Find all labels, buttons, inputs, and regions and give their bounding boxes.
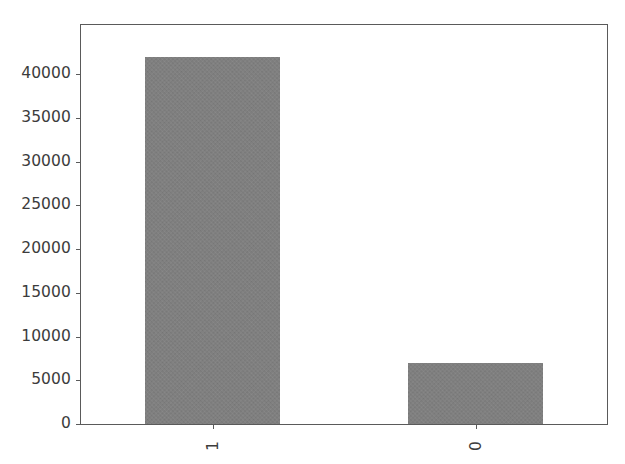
- plot-area: 0500010000150002000025000300003500040000…: [80, 24, 608, 425]
- x-tick-label: 0: [467, 426, 485, 464]
- x-tick-label: 1: [204, 426, 222, 464]
- bar: [145, 57, 279, 425]
- y-tick-label: 25000: [5, 195, 71, 213]
- y-tick-label: 30000: [5, 152, 71, 170]
- y-tick-mark: [76, 118, 81, 119]
- y-tick-mark: [76, 162, 81, 163]
- y-tick-mark: [76, 249, 81, 250]
- y-tick-label: 10000: [5, 327, 71, 345]
- bars-layer: [81, 25, 607, 424]
- bar: [408, 363, 542, 424]
- bar-chart-figure: 0500010000150002000025000300003500040000…: [0, 0, 625, 464]
- y-tick-label: 15000: [5, 283, 71, 301]
- y-tick-label: 20000: [5, 239, 71, 257]
- y-tick-mark: [76, 380, 81, 381]
- y-tick-mark: [76, 337, 81, 338]
- y-tick-label: 35000: [5, 108, 71, 126]
- y-tick-mark: [76, 293, 81, 294]
- y-tick-label: 5000: [5, 370, 71, 388]
- y-tick-mark: [76, 205, 81, 206]
- y-tick-label: 0: [5, 414, 71, 432]
- y-tick-mark: [76, 424, 81, 425]
- y-tick-label: 40000: [5, 64, 71, 82]
- y-tick-mark: [76, 74, 81, 75]
